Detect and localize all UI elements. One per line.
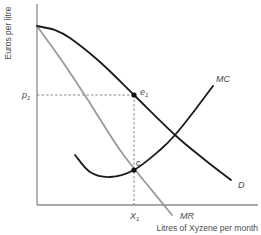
point-e1 <box>131 92 136 97</box>
marginal-revenue-curve <box>37 26 172 215</box>
c-label: c <box>136 158 141 168</box>
point-c <box>131 167 136 172</box>
y-axis-title: Euros per litre <box>3 6 13 59</box>
x1-tick-label: X1 <box>129 211 139 222</box>
mr-curve-label: MR <box>180 211 194 221</box>
demand-curve <box>37 26 231 180</box>
monopoly-diagram: Euros per litre Litres of Xyzene per mon… <box>0 0 261 235</box>
d-curve-label: D <box>238 180 245 190</box>
mc-curve-label: MC <box>216 74 230 84</box>
e1-label: e1 <box>140 87 148 98</box>
x-axis-title: Litres of Xyzene per month <box>156 223 258 233</box>
p1-tick-label: p1 <box>21 90 30 101</box>
marginal-cost-curve <box>75 86 213 177</box>
